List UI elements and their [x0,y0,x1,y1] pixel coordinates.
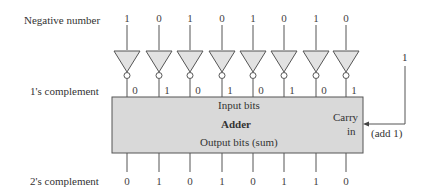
carry-in-path [368,66,405,124]
inverter-gate-icon [271,51,297,79]
ones-complement-bit: 0 [192,84,204,96]
twos-complement-bit: 1 [153,175,165,187]
ones-complement-bit: 1 [286,84,298,96]
inverter-gate-icon [209,51,235,79]
twos-complement-bit: 1 [310,175,322,187]
ones-complement-bit: 0 [129,84,141,96]
inverter-gate-icon [177,51,203,79]
negative-bit: 0 [340,12,352,24]
inverter-gate-icon [303,51,329,79]
inverter-gate-icon [333,51,359,79]
negative-bit: 0 [216,12,228,24]
arrowhead-icon [363,122,369,127]
twos-complement-bit: 0 [340,175,352,187]
negative-bit: 0 [153,12,165,24]
ones-complement-bit: 1 [348,84,360,96]
inverter-gate-icon [146,51,172,79]
inverter-gate-icon [114,51,140,79]
inverter-gates [114,51,359,79]
negative-bit: 0 [278,12,290,24]
output-wires [127,153,346,172]
negative-bit: 1 [184,12,196,24]
label-twos-complement: 2's complement [30,175,128,187]
label-ones-complement: 1's complement [30,85,128,97]
diagram-canvas [0,0,429,194]
adder-title: Adder [221,118,251,130]
twos-complement-bit: 0 [184,175,196,187]
ones-complement-bit: 0 [255,84,267,96]
adder-input-label: Input bits [218,99,260,111]
twos-complement-bit: 0 [247,175,259,187]
negative-bit: 1 [310,12,322,24]
inverter-gate-icon [240,51,266,79]
input-wires [127,25,346,50]
carry-add-note: (add 1) [371,127,402,139]
adder-output-label: Output bits (sum) [200,136,278,148]
twos-complement-bit: 1 [278,175,290,187]
negative-bit: 1 [121,12,133,24]
ones-complement-bit: 0 [318,84,330,96]
complement-wires [127,79,346,97]
negative-bit: 1 [247,12,259,24]
ones-complement-bit: 1 [161,84,173,96]
carry-input-value: 1 [402,51,408,63]
ones-complement-bit: 1 [224,84,236,96]
twos-complement-bit: 1 [216,175,228,187]
label-negative-number: Negative number [24,14,122,26]
twos-complement-bit: 0 [121,175,133,187]
carry-in-label: in [347,125,356,137]
carry-label: Carry [333,111,358,123]
